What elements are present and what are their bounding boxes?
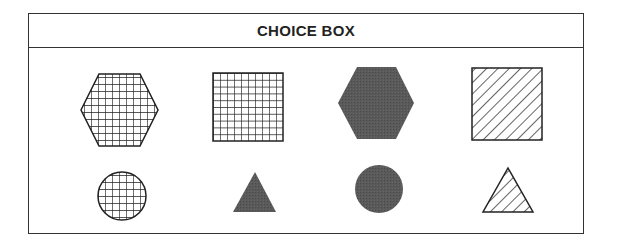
solid-hexagon-shape[interactable] <box>338 67 414 139</box>
solid-triangle-shape[interactable] <box>233 172 276 212</box>
grid-hexagon-shape[interactable] <box>81 74 158 146</box>
hatched-triangle-shape[interactable] <box>483 168 533 212</box>
hatched-square-shape[interactable] <box>472 68 542 140</box>
grid-square-shape[interactable] <box>213 73 283 141</box>
shapes-canvas <box>0 0 617 243</box>
grid-circle-shape[interactable] <box>98 172 146 220</box>
solid-circle-shape[interactable] <box>355 165 403 213</box>
